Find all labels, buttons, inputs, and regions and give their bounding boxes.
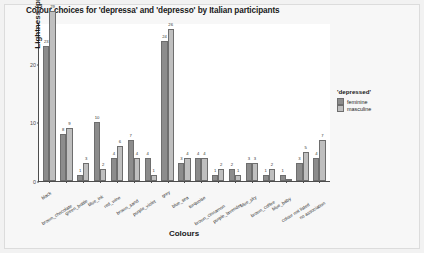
bar-value-label: 3 [180, 157, 182, 161]
y-tick-label: 20 [30, 62, 36, 68]
plot-area: Lightness (predicted) 01020 232989131024… [38, 24, 330, 182]
bar: 2 [218, 169, 224, 181]
bar-value-label: 1 [214, 169, 216, 173]
bar-value-label: 3 [85, 157, 87, 161]
x-tick-mark [269, 181, 270, 183]
x-tick-mark [134, 181, 135, 183]
x-tick-label: black [41, 191, 53, 201]
bar: 29 [49, 11, 55, 181]
bar-value-label: 26 [168, 23, 173, 27]
bar-value-label: 8 [62, 128, 64, 132]
x-tick-mark [286, 181, 287, 183]
x-tick-mark [100, 181, 101, 183]
bar-value-label: 7 [321, 134, 323, 138]
x-tick-mark [184, 181, 185, 183]
bar-group: 12 [260, 24, 277, 181]
bar-value-label: 3 [298, 157, 300, 161]
x-tick-label: blue_ink [87, 194, 104, 207]
x-tick-mark [117, 181, 118, 183]
bar-group: 74 [125, 24, 142, 181]
bar-value-label: 1 [265, 169, 267, 173]
bar-series-container: 23298913102467441242634441221331213547 [39, 24, 330, 181]
bar-group: 33 [244, 24, 261, 181]
x-tick-label-cell: brown_sand [125, 184, 142, 228]
bar: 4 [201, 158, 207, 181]
bar-value-label: 29 [50, 5, 55, 9]
y-tick-mark [37, 182, 39, 183]
bar: 2 [100, 169, 106, 181]
bar-value-label: 1 [153, 169, 155, 173]
bar-value-label: 1 [79, 169, 81, 173]
bar-group: 2426 [159, 24, 176, 181]
bar: 7 [319, 140, 325, 181]
bar-value-label: 2 [271, 163, 273, 167]
x-tick-mark [235, 181, 236, 183]
y-tick-label: 0 [33, 179, 36, 185]
bar-value-label: 4 [197, 152, 199, 156]
legend-color-swatch [338, 99, 343, 104]
legend-color-swatch [338, 106, 343, 111]
bar-group: 47 [311, 24, 328, 181]
x-tick-mark [168, 181, 169, 183]
bar-value-label: 4 [186, 152, 188, 156]
bar-value-label: 1 [237, 169, 239, 173]
bar-value-label: 2 [231, 163, 233, 167]
legend-title: 'depressed' [337, 88, 417, 95]
bar-value-label: 6 [119, 140, 121, 144]
bar-group: 2329 [41, 24, 58, 181]
bar-group: 102 [92, 24, 109, 181]
bar: 4 [134, 158, 140, 181]
chart-title: Colour choices for 'depressa' and 'depre… [26, 6, 346, 15]
bar: 6 [117, 146, 123, 181]
x-tick-label-cell: blue_sky [243, 184, 260, 228]
x-tick-label-cell: brown_chocolate [57, 184, 74, 228]
legend-item-label: feminine [347, 99, 367, 105]
legend-swatch-box [337, 98, 344, 105]
chart-canvas: Colour choices for 'depressa' and 'depre… [0, 0, 424, 253]
legend-swatch-box [337, 105, 344, 112]
x-axis-tick-labels: blackbrown_chocolategreen_bottleblue_ink… [38, 184, 330, 228]
bar-value-label: 1 [281, 169, 283, 173]
x-tick-label-cell: colour not listed [294, 184, 311, 228]
x-tick-label: grey [161, 190, 171, 199]
bar-group: 35 [294, 24, 311, 181]
legend-items: femininemasculine [337, 98, 417, 112]
bar-group: 21 [227, 24, 244, 181]
x-tick-mark [319, 181, 320, 183]
bar: 5 [303, 152, 309, 181]
x-tick-mark [218, 181, 219, 183]
x-tick-mark [151, 181, 152, 183]
bar-value-label: 10 [95, 116, 100, 120]
bar-value-label: 4 [203, 152, 205, 156]
bar-group: 13 [75, 24, 92, 181]
legend-item[interactable]: masculine [337, 105, 417, 112]
legend-item-label: masculine [347, 106, 371, 112]
legend: 'depressed' femininemasculine [337, 88, 417, 112]
bar: 3 [83, 163, 89, 181]
bar-value-label: 2 [220, 163, 222, 167]
bar-value-label: 7 [130, 134, 132, 138]
bar-value-label: 23 [44, 40, 49, 44]
x-tick-mark [201, 181, 202, 183]
bar-group: 1 [277, 24, 294, 181]
bar-group: 12 [210, 24, 227, 181]
legend-item[interactable]: feminine [337, 98, 417, 105]
bar: 26 [168, 29, 174, 181]
x-axis-title: Colours [38, 229, 330, 238]
bar: 9 [66, 128, 72, 181]
bar-group: 34 [176, 24, 193, 181]
bar: 4 [184, 158, 190, 181]
bar-value-label: 3 [254, 157, 256, 161]
bar-group: 41 [142, 24, 159, 181]
x-tick-mark [49, 181, 50, 183]
bar-value-label: 9 [68, 122, 70, 126]
x-tick-label-cell: no association [311, 184, 328, 228]
bar-value-label: 4 [136, 152, 138, 156]
bar-value-label: 5 [304, 146, 306, 150]
bar-value-label: 4 [315, 152, 317, 156]
bar-value-label: 2 [102, 163, 104, 167]
bar-group: 44 [193, 24, 210, 181]
bar-group: 46 [109, 24, 126, 181]
x-tick-mark [66, 181, 67, 183]
bar: 3 [252, 163, 258, 181]
